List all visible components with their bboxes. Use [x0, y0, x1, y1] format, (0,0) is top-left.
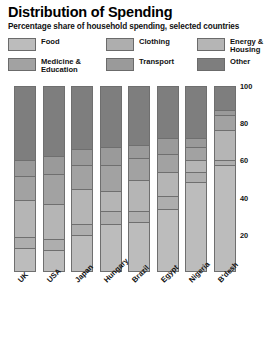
bar-segment: [215, 87, 235, 111]
bar-segment: [129, 87, 149, 146]
legend-item: Energy & Housing: [197, 38, 263, 54]
chart-legend: FoodClothingEnergy & HousingMedicine & E…: [8, 38, 266, 78]
bar-segment: [129, 146, 149, 159]
y-axis-tick-label: 100: [240, 82, 252, 91]
bar-segment: [129, 212, 149, 223]
x-axis-labels: UKUSAJapanHungaryBrazilEgyptNigeriaB'des…: [0, 274, 271, 334]
bar-segment: [72, 225, 92, 236]
bar-segment: [129, 159, 149, 181]
legend-swatch-icon: [197, 38, 225, 51]
bar-segment: [44, 240, 64, 251]
bar-segment: [215, 131, 235, 160]
bar-segment: [44, 157, 64, 175]
stacked-bar: [14, 86, 36, 272]
stacked-bar: [185, 86, 207, 272]
bar-segment: [101, 166, 121, 192]
bar-segment: [72, 166, 92, 190]
stacked-bar: [43, 86, 65, 272]
bar-segment: [101, 148, 121, 166]
legend-label: Food: [41, 38, 60, 46]
bar-segment: [101, 192, 121, 212]
bar-segment: [15, 177, 35, 201]
bar-segment: [44, 87, 64, 157]
bar-segment: [72, 150, 92, 167]
bar-segment: [101, 87, 121, 148]
bar-segment: [158, 87, 178, 139]
stacked-bar: [214, 86, 236, 272]
bar-segment: [15, 238, 35, 249]
bar-segment: [186, 148, 206, 161]
bar-segment: [72, 87, 92, 150]
legend-swatch-icon: [197, 58, 225, 71]
stacked-bar: [71, 86, 93, 272]
bar-segment: [186, 183, 206, 271]
bar-segment: [72, 190, 92, 225]
bar-segment: [158, 197, 178, 210]
bar-segment: [186, 139, 206, 148]
page-title: Distribution of Spending: [8, 4, 172, 20]
legend-swatch-icon: [8, 38, 36, 51]
bar-segment: [186, 87, 206, 139]
stacked-bar: [128, 86, 150, 272]
chart-figure: Distribution of Spending Percentage shar…: [0, 0, 271, 337]
legend-item: Clothing: [106, 38, 170, 51]
y-axis-tick-label: 80: [240, 119, 248, 128]
bar-segment: [186, 161, 206, 174]
x-axis-tick-label: UK: [16, 270, 30, 284]
bar-segment: [129, 181, 149, 212]
stacked-bar: [100, 86, 122, 272]
bar-segment: [101, 212, 121, 225]
bar-segment: [158, 173, 178, 197]
bar-segment: [158, 155, 178, 173]
bar-segment: [15, 161, 35, 178]
legend-item: Medicine & Education: [8, 58, 81, 74]
chart-subtitle: Percentage share of household spending, …: [8, 22, 239, 31]
legend-swatch-icon: [106, 38, 134, 51]
y-axis-tick-label: 60: [240, 156, 248, 165]
legend-label: Other: [230, 58, 250, 66]
bar-segment: [15, 201, 35, 238]
y-axis-tick-label: 40: [240, 194, 248, 203]
bar-segment: [44, 205, 64, 240]
legend-label: Medicine & Education: [41, 58, 81, 74]
legend-item: Other: [197, 58, 250, 71]
legend-item: Food: [8, 38, 60, 51]
legend-item: Transport: [106, 58, 174, 71]
bar-segment: [15, 87, 35, 161]
bar-segment: [158, 210, 178, 271]
plot-area: [14, 86, 236, 272]
y-axis-tick-label: 20: [240, 231, 248, 240]
bar-segment: [158, 139, 178, 156]
stacked-bar: [157, 86, 179, 272]
bar-segment: [44, 175, 64, 204]
legend-label: Energy & Housing: [230, 38, 263, 54]
bar-segment: [215, 116, 235, 131]
legend-swatch-icon: [8, 58, 36, 71]
y-axis: 10080604020: [240, 80, 270, 280]
legend-label: Clothing: [139, 38, 170, 46]
bar-segment: [215, 166, 235, 271]
bar-segment: [186, 173, 206, 182]
legend-label: Transport: [139, 58, 174, 66]
bar-segment: [15, 249, 35, 271]
legend-swatch-icon: [106, 58, 134, 71]
